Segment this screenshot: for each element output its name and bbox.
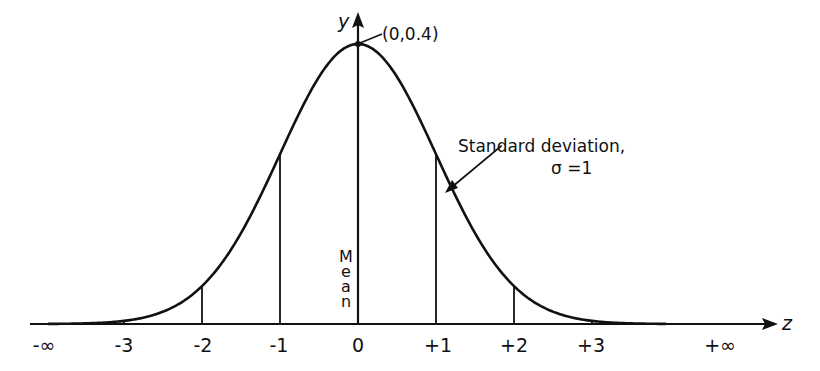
sd-label-line1: Standard deviation,	[458, 136, 625, 156]
x-tick-label: -∞	[33, 334, 56, 356]
x-tick-labels: -∞-3-2-10+1+2+3+∞	[33, 334, 736, 356]
x-axis-label: z	[781, 312, 793, 334]
svg-text:Mean: Mean	[339, 247, 353, 311]
peak-point	[355, 41, 361, 47]
y-axis-label: y	[337, 10, 350, 32]
peak-leader	[360, 34, 382, 43]
x-tick-label: -2	[194, 334, 213, 356]
x-tick-label: +2	[500, 334, 528, 356]
x-tick-label: -1	[270, 334, 289, 356]
x-tick-label: -3	[115, 334, 134, 356]
peak-label: (0,0.4)	[382, 24, 439, 44]
sd-arrow-head-icon	[445, 180, 458, 193]
sd-label-line2: σ =1	[551, 158, 592, 178]
x-tick-label: +∞	[704, 334, 736, 356]
x-tick-label: +3	[577, 334, 605, 356]
x-tick-label: +1	[424, 334, 452, 356]
mean-label: Mean	[339, 247, 353, 311]
normal-distribution-diagram: (0,0.4) y z Mean Standard deviation, σ =…	[0, 0, 820, 371]
x-tick-label: 0	[352, 334, 364, 356]
